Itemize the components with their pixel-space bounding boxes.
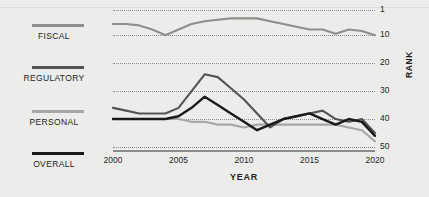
legend-item-personal[interactable]: PERSONAL xyxy=(0,102,108,136)
y-tick-50: 50 xyxy=(380,141,389,151)
series-line-fiscal xyxy=(113,18,375,35)
y-tick-20: 20 xyxy=(380,57,389,67)
y-tick-30: 30 xyxy=(380,85,389,95)
y-axis-title: RANK xyxy=(404,51,414,78)
series-lines xyxy=(113,10,375,147)
x-axis-line xyxy=(113,150,375,152)
legend-label-regulatory: REGULATORY xyxy=(0,73,108,83)
legend-swatch-regulatory xyxy=(32,66,84,69)
x-tick-2005: 2005 xyxy=(169,155,188,165)
series-line-overall xyxy=(113,97,375,136)
legend-swatch-personal xyxy=(32,110,84,113)
legend-label-overall: OVERALL xyxy=(0,159,108,169)
legend-item-regulatory[interactable]: REGULATORY xyxy=(0,58,108,92)
legend-item-fiscal[interactable]: FISCAL xyxy=(0,16,108,50)
x-tick-2000: 2000 xyxy=(104,155,123,165)
legend-swatch-fiscal xyxy=(32,24,84,27)
chart-plot: 11020304050 RANK 20002005201020152020 YE… xyxy=(108,0,429,197)
gridline-rank-50 xyxy=(113,147,375,148)
x-tick-2015: 2015 xyxy=(300,155,319,165)
legend-label-personal: PERSONAL xyxy=(0,117,108,127)
y-tick-10: 10 xyxy=(380,29,389,39)
chart-legend: FISCAL REGULATORY PERSONAL OVERALL xyxy=(0,0,108,197)
legend-label-fiscal: FISCAL xyxy=(0,31,108,41)
legend-swatch-overall xyxy=(32,152,84,155)
plot-inner xyxy=(113,10,375,147)
y-tick-1: 1 xyxy=(380,4,385,14)
x-tick-2010: 2010 xyxy=(235,155,254,165)
legend-item-overall[interactable]: OVERALL xyxy=(0,144,108,178)
x-axis-title: YEAR xyxy=(113,172,375,182)
x-tick-2020: 2020 xyxy=(366,155,385,165)
y-tick-40: 40 xyxy=(380,113,389,123)
chart-root: FISCAL REGULATORY PERSONAL OVERALL 11020… xyxy=(0,0,429,197)
